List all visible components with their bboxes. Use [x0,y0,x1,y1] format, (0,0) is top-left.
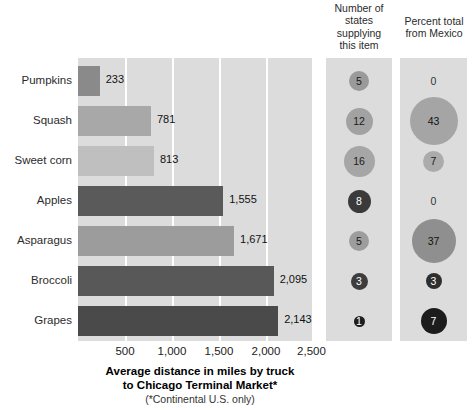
bar-grapes[interactable] [78,306,278,336]
bar-row: 233 [78,66,313,96]
bar-pumpkins[interactable] [78,66,100,96]
bar-squash[interactable] [78,106,151,136]
bubble-cell: 37 [400,221,467,261]
mexico-bubble-sweet-corn[interactable]: 7 [423,151,444,172]
states-bubble-asparagus[interactable]: 5 [349,231,369,251]
category-label-grapes: Grapes [0,314,72,326]
mexico-bubble-panel: 043703737 [400,58,467,341]
bubble-cell: 7 [400,301,467,341]
states-bubble-squash[interactable]: 12 [346,108,373,135]
bar-row: 781 [78,106,313,136]
bar-value-label: 813 [160,153,178,165]
bar-value-label: 233 [106,73,124,85]
bubble-cell: 16 [326,141,392,181]
bubble-cell: 43 [400,101,467,141]
mexico-bubble-apples[interactable]: 0 [431,196,437,207]
states-bubble-apples[interactable]: 8 [348,190,371,213]
x-tick-500: 500 [103,345,147,357]
bar-row: 2,143 [78,306,313,336]
bar-row: 2,095 [78,266,313,296]
mexico-bubble-grapes[interactable]: 7 [421,308,447,334]
category-label-pumpkins: Pumpkins [0,74,72,86]
category-label-asparagus: Asparagus [0,234,72,246]
x-axis-caption: Average distance in miles by truck to Ch… [55,364,345,392]
bubble-cell: 0 [400,61,467,101]
bubble-cell: 5 [326,221,392,261]
category-label-broccoli: Broccoli [0,274,72,286]
bubble-cell: 0 [400,181,467,221]
x-axis-note: (*Continental U.S. only) [55,393,345,405]
bar-value-label: 1,555 [229,193,257,205]
mexico-column-header: Percent total from Mexico [398,15,470,40]
category-label-squash: Squash [0,114,72,126]
bar-value-label: 1,671 [240,233,268,245]
states-bubble-pumpkins[interactable]: 5 [349,71,369,91]
states-bubble-sweet-corn[interactable]: 16 [344,146,375,177]
mexico-bubble-squash[interactable]: 43 [410,97,458,145]
mexico-bubble-asparagus[interactable]: 37 [412,219,456,263]
mexico-bubble-pumpkins[interactable]: 0 [431,76,437,87]
bar-row: 1,555 [78,186,313,216]
x-tick-2500: 2,500 [290,345,334,357]
bar-value-label: 781 [157,113,175,125]
x-tick-2000: 2,000 [244,345,288,357]
x-axis-caption-line2: to Chicago Terminal Market* [55,378,345,392]
bar-sweet-corn[interactable] [78,146,154,176]
states-column-header: Number of states supplying this item [324,2,394,52]
bar-row: 813 [78,146,313,176]
bar-asparagus[interactable] [78,226,234,256]
bar-value-label: 2,095 [280,273,308,285]
bubble-cell: 12 [326,101,392,141]
mexico-bubble-broccoli[interactable]: 3 [426,273,442,289]
bar-broccoli[interactable] [78,266,274,296]
bubble-cell: 8 [326,181,392,221]
x-axis-caption-line1: Average distance in miles by truck [55,364,345,378]
category-label-apples: Apples [0,194,72,206]
bubble-cell: 3 [400,261,467,301]
bubble-cell: 5 [326,61,392,101]
x-tick-1500: 1,500 [197,345,241,357]
bubble-cell: 1 [326,301,392,341]
states-bubble-grapes[interactable]: 1 [354,316,365,327]
states-bubble-panel: 512168531 [326,58,392,341]
x-tick-1000: 1,000 [150,345,194,357]
bar-value-label: 2,143 [284,313,312,325]
bubble-cell: 3 [326,261,392,301]
bar-chart-plot-area: 2337818131,5551,6712,0952,143 [78,58,313,341]
bar-row: 1,671 [78,226,313,256]
states-bubble-broccoli[interactable]: 3 [351,273,368,290]
bar-apples[interactable] [78,186,223,216]
bubble-cell: 7 [400,141,467,181]
category-label-sweet-corn: Sweet corn [0,154,72,166]
